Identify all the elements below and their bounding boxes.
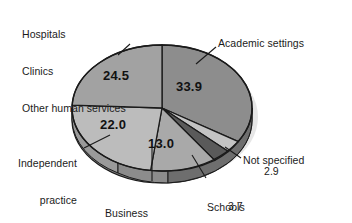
callout-hospitals-line-3: Other human services [22,102,126,114]
pie-chart: 33.9 24.5 22.0 13.0 Hospitals Clinics Ot… [0,0,352,223]
callout-hospitals-line-2: Clinics [22,65,126,77]
callout-independent-line-1: Independent [18,157,77,169]
callout-business-line-1: Business [105,207,163,219]
slice-value-academic-settings: 33.9 [176,79,202,94]
callout-schools-value: 3.7 [228,200,243,212]
callout-business-government: Business Government [105,183,163,223]
callout-schools-other-educational: Schools Other educational settings [207,177,330,223]
callout-hospitals-line-1: Hospitals [22,28,126,40]
callout-independent-line-2: practice [18,194,77,206]
callout-academic-settings: Academic settings [218,37,304,49]
callout-hospitals-clinics-human-services: Hospitals Clinics Other human services [22,4,126,138]
callout-independent-practice: Independent practice [18,133,77,223]
slice-value-business-government: 13.0 [148,136,174,151]
callout-not-specified-value: 2.9 [264,165,279,177]
callout-schools-line-1: Schools [207,201,330,213]
